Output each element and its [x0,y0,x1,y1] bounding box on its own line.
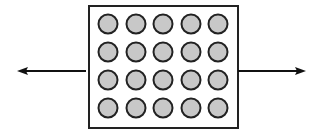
particle-circle [154,43,173,62]
particle-circle [154,99,173,118]
particle-circle [99,15,118,34]
particle-circle [182,99,201,118]
particle-circle [182,71,201,90]
particle-circle [154,71,173,90]
particle-circle [182,43,201,62]
particle-circle [209,43,228,62]
particle-circle [127,15,146,34]
particle-circle [99,43,118,62]
particle-circle [127,43,146,62]
particle-circle [209,71,228,90]
particle-circle [182,15,201,34]
particle-circle [99,99,118,118]
particle-circle [127,71,146,90]
diagram-canvas [0,0,323,136]
particle-circle [209,99,228,118]
particle-circle [154,15,173,34]
particle-circle [209,15,228,34]
particle-circle [99,71,118,90]
particle-circle [127,99,146,118]
